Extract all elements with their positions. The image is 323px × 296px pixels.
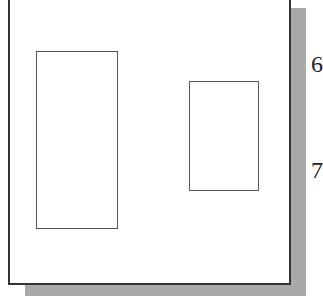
label-7: 7	[311, 158, 323, 182]
short-rectangle	[189, 81, 259, 191]
tall-rectangle	[36, 51, 118, 229]
label-6: 6	[311, 52, 323, 76]
